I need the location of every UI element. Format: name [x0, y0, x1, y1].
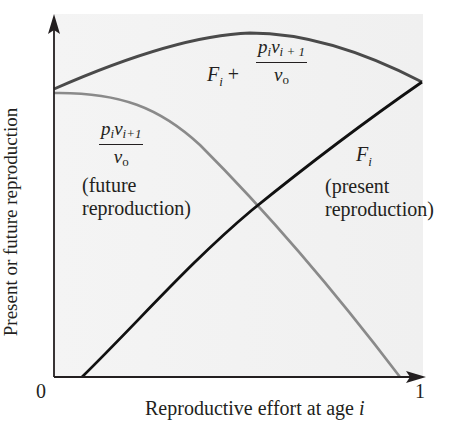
future-curve-desc-line2: reproduction) [82, 198, 191, 219]
future-curve-desc-line1: (future [82, 175, 136, 196]
y-axis-label: Present or future reproduction [0, 108, 22, 336]
future-curve-fraction: pivi+1 vo [99, 118, 143, 170]
present-curve-desc-line2: reproduction) [325, 199, 434, 220]
total-curve-fraction: pivi + 1 vo [256, 36, 307, 88]
figure: Present or future reproduction 0 1 Repro… [0, 0, 450, 423]
present-curve-desc-line1: (present [325, 176, 389, 197]
x-tick-0: 0 [36, 381, 46, 402]
present-curve-label: Fi [356, 144, 372, 169]
total-curve-label: Fi + [207, 64, 239, 89]
x-tick-1: 1 [415, 381, 425, 402]
x-axis-label: Reproductive effort at age i [145, 398, 365, 419]
